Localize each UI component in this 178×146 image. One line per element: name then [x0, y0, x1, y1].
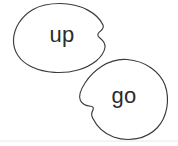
blob-illustration: up go [0, 0, 178, 146]
blob-label-go: go [111, 83, 136, 108]
blob-label-up: up [49, 22, 74, 47]
blob-group-up[interactable]: up [13, 4, 105, 73]
blob-group-go[interactable]: go [80, 59, 168, 139]
word-blob-canvas: up go [0, 0, 178, 146]
